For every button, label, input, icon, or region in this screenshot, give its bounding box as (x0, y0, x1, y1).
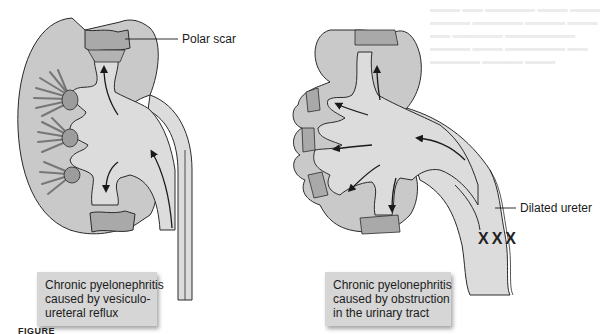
obstruction-mark: XXX (478, 230, 519, 248)
right-caption-line-2: caused by obstruction (333, 292, 443, 306)
left-kidney (18, 18, 192, 300)
left-caption-line-1: Chronic pyelonephritis (45, 278, 149, 292)
polar-scar-label: Polar scar (182, 32, 236, 46)
lower-scar (90, 211, 135, 232)
left-caption-box: Chronic pyelonephritis caused by vesicul… (37, 272, 157, 326)
polar-scar (85, 30, 130, 52)
right-caption-line-3: in the urinary tract (333, 306, 443, 320)
right-kidney (293, 30, 516, 295)
left-caption-line-2: caused by vesiculo- (45, 292, 149, 306)
figure-stage: ▬▬▬ ▬▬ ▬▬▬▬▬ ▬▬▬ ▬▬▬▬▬▬▬ ▬▬▬▬▬ ▬▬▬▬ ▬▬▬▬… (0, 0, 601, 334)
right-caption-box: Chronic pyelonephritis caused by obstruc… (325, 272, 451, 326)
right-caption-line-1: Chronic pyelonephritis (333, 278, 443, 292)
left-caption-line-3: ureteral reflux (45, 306, 149, 320)
dilated-ureter-label: Dilated ureter (520, 201, 592, 215)
figure-caption: FIGURE (18, 326, 55, 334)
